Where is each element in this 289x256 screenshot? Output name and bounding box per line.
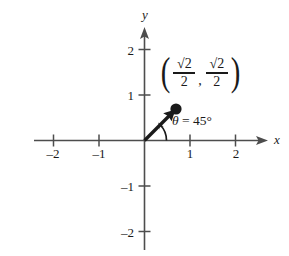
y-coordinate-fraction: √2 2 — [205, 56, 229, 90]
x-tick-label--1: –1 — [93, 147, 106, 160]
angle-arc — [160, 125, 166, 141]
coordinate-plane-figure: x y –2 –1 1 2 2 1 –1 –2 θ = 45° ( √2 2 ,… — [0, 0, 289, 256]
x-tick-label-1: 1 — [187, 147, 194, 160]
x-coordinate-fraction: √2 2 — [172, 56, 196, 90]
theta-symbol: θ — [172, 113, 179, 128]
angle-value: 45° — [193, 113, 212, 128]
x-tick-label--2: –2 — [47, 147, 60, 160]
y-tick-label--1: –1 — [121, 180, 134, 193]
y-numerator: √2 — [208, 56, 225, 72]
close-paren: ) — [231, 56, 241, 89]
x-tick-label-2: 2 — [233, 147, 240, 160]
y-tick-label-2: 2 — [128, 44, 135, 57]
plot-canvas — [0, 0, 289, 256]
open-paren: ( — [161, 56, 171, 89]
angle-equals: = — [179, 113, 193, 128]
x-axis-label: x — [274, 133, 280, 146]
x-denominator: 2 — [181, 74, 188, 90]
y-denominator: 2 — [213, 74, 220, 90]
point-coordinate-annotation: ( √2 2 , √2 2 ) — [159, 56, 242, 90]
coordinate-comma: , — [196, 74, 205, 90]
x-numerator: √2 — [176, 56, 193, 72]
y-tick-label--2: –2 — [121, 226, 134, 239]
y-tick-label-1: 1 — [128, 89, 135, 102]
angle-annotation: θ = 45° — [172, 114, 212, 128]
y-axis-label: y — [142, 8, 148, 21]
